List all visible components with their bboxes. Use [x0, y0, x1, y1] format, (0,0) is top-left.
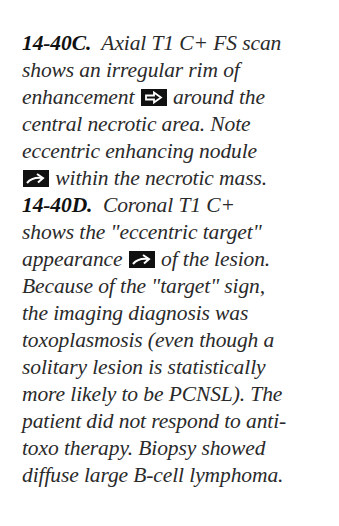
caption-text: diffuse large B-cell lymphoma. — [22, 463, 283, 487]
caption-line: appearance of the lesion. — [22, 246, 339, 273]
caption-line: toxoplasmosis (even though a — [22, 327, 339, 354]
caption-line: solitary lesion is statistically — [22, 354, 339, 381]
caption-text: toxo therapy. Biopsy showed — [22, 436, 265, 460]
caption-line: shows the "eccentric target" — [22, 219, 339, 246]
caption-line: enhancement around the — [22, 84, 339, 111]
caption-text: around the — [173, 85, 265, 109]
caption-text: the imaging diagnosis was — [22, 301, 248, 325]
caption-line: the imaging diagnosis was — [22, 300, 339, 327]
caption-text: Because of the "target" sign, — [22, 274, 265, 298]
caption-text: Coronal T1 C+ — [103, 193, 235, 217]
caption-text: more likely to be PCNSL). The — [22, 382, 282, 406]
caption-line: shows an irregular rim of — [22, 57, 339, 84]
caption-text: patient did not respond to anti- — [22, 409, 286, 433]
caption-text: within the necrotic mass. — [55, 166, 267, 190]
caption-text: shows an irregular rim of — [22, 58, 240, 82]
caption-line: 14-40D. Coronal T1 C+ — [22, 192, 339, 219]
caption-line: central necrotic area. Note — [22, 111, 339, 138]
figure-label-c: 14-40C. — [22, 31, 91, 55]
caption-text: toxoplasmosis (even though a — [22, 328, 274, 352]
caption-text: eccentric enhancing nodule — [22, 139, 257, 163]
figure-caption: 14-40C. Axial T1 C+ FS scan shows an irr… — [22, 30, 339, 489]
caption-line: within the necrotic mass. — [22, 165, 339, 192]
caption-line: diffuse large B-cell lymphoma. — [22, 462, 339, 489]
caption-line: patient did not respond to anti- — [22, 408, 339, 435]
caption-line: more likely to be PCNSL). The — [22, 381, 339, 408]
caption-line: eccentric enhancing nodule — [22, 138, 339, 165]
caption-text: solitary lesion is statistically — [22, 355, 265, 379]
caption-text: of the lesion. — [161, 247, 270, 271]
figure-label-d: 14-40D. — [22, 193, 92, 217]
caption-text: central necrotic area. Note — [22, 112, 251, 136]
caption-text: Axial T1 C+ FS scan — [101, 31, 281, 55]
caption-text: shows the "eccentric target" — [22, 220, 262, 244]
caption-line: Because of the "target" sign, — [22, 273, 339, 300]
caption-text: enhancement — [22, 85, 134, 109]
curved-arrow-icon — [23, 170, 49, 187]
open-arrow-icon — [141, 89, 167, 106]
curved-arrow-icon — [129, 251, 155, 268]
caption-line: toxo therapy. Biopsy showed — [22, 435, 339, 462]
caption-line: 14-40C. Axial T1 C+ FS scan — [22, 30, 339, 57]
caption-text: appearance — [22, 247, 123, 271]
